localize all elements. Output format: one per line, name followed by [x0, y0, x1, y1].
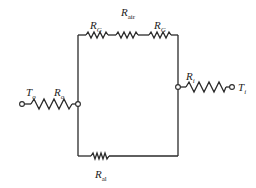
- left-junction-node: [76, 102, 81, 107]
- inner-branch: [180, 82, 230, 92]
- right-junction-node: [176, 85, 181, 90]
- label-t-o: To: [26, 86, 36, 101]
- label-rg-right: RG: [153, 19, 166, 34]
- label-r-al: Ral: [94, 168, 107, 183]
- label-t-i: Ti: [238, 81, 246, 96]
- resistor-rair: [116, 32, 138, 38]
- label-rg-left: RG: [89, 19, 102, 34]
- ti-terminal-node: [230, 85, 235, 90]
- resistor-ro: [31, 99, 72, 109]
- label-r-air: Rair: [120, 6, 136, 21]
- thermal-circuit-diagram: Rair RG RG To Ro Ri Ti Ral: [0, 0, 256, 188]
- lower-branch: [78, 153, 178, 159]
- label-r-o: Ro: [53, 86, 65, 101]
- resistor-ral: [91, 153, 109, 159]
- to-terminal-node: [20, 102, 25, 107]
